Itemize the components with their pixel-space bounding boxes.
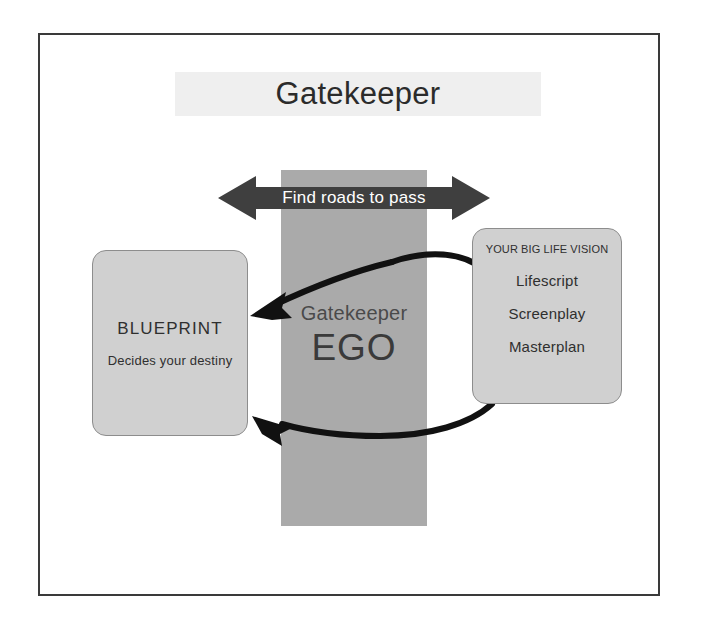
vision-item-masterplan: Masterplan (509, 338, 585, 355)
find-roads-double-arrow (218, 174, 490, 222)
ego-column (281, 170, 427, 526)
blueprint-subtitle: Decides your destiny (108, 353, 233, 368)
vision-box[interactable]: YOUR BIG LIFE VISION Lifescript Screenpl… (472, 228, 622, 404)
page-title: Gatekeeper (175, 72, 541, 116)
vision-item-lifescript: Lifescript (516, 272, 578, 289)
double-arrow-shape (218, 176, 490, 220)
vision-box-title: YOUR BIG LIFE VISION (486, 243, 608, 255)
blueprint-title: BLUEPRINT (117, 319, 222, 339)
diagram-canvas: Gatekeeper Gatekeeper EGO Find roads to … (0, 0, 702, 632)
blueprint-box[interactable]: BLUEPRINT Decides your destiny (92, 250, 248, 436)
vision-item-screenplay: Screenplay (508, 305, 585, 322)
